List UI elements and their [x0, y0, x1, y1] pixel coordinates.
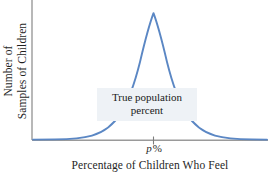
- y-axis-label-line-1: Number of: [1, 9, 15, 133]
- x-axis-label: Percentage of Children Who Feel: [32, 159, 268, 171]
- y-axis-label-line-2: Samples of Children: [15, 9, 29, 133]
- annotation-line-1: True population: [100, 91, 194, 104]
- sampling-distribution-figure: Number of Samples of Children Percentage…: [0, 0, 279, 176]
- annotation-line-2: percent: [100, 104, 194, 117]
- x-axis-tick-label: p%: [133, 142, 175, 154]
- tick-label-unit: %: [153, 142, 162, 154]
- true-population-percent-annotation: True population percent: [97, 88, 197, 121]
- y-axis-label: Number of Samples of Children: [1, 9, 31, 133]
- tick-label-symbol: p: [146, 142, 152, 154]
